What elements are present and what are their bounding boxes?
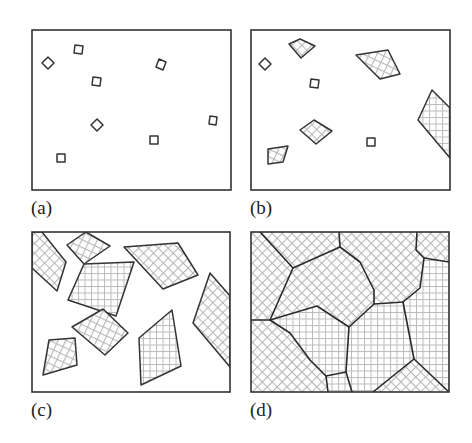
panel-c: (c) xyxy=(31,232,230,421)
panel-b-frame xyxy=(251,30,450,190)
grain xyxy=(300,120,332,144)
panel-b-grains xyxy=(268,39,450,164)
grain xyxy=(268,146,288,164)
nucleus xyxy=(367,138,375,146)
panel-a-label: (a) xyxy=(31,197,52,219)
grain-growth-figure: (a) (b) (c) (d) xyxy=(0,0,472,443)
grain xyxy=(67,232,110,264)
grain xyxy=(72,309,128,355)
grain xyxy=(418,90,450,158)
panel-a-nuclei xyxy=(42,45,217,162)
nucleus xyxy=(310,79,319,88)
nucleus xyxy=(57,154,65,162)
panel-b: (b) xyxy=(250,30,450,219)
grain xyxy=(124,243,198,289)
panel-c-grains xyxy=(32,232,230,385)
panel-a: (a) xyxy=(31,30,231,219)
panel-d: (d) xyxy=(250,232,449,421)
panel-c-label: (c) xyxy=(31,399,52,421)
nucleus xyxy=(92,77,101,86)
grain xyxy=(43,338,77,375)
nucleus xyxy=(74,45,83,54)
grain xyxy=(139,310,181,385)
grain xyxy=(68,262,134,316)
nucleus xyxy=(209,116,217,125)
panel-b-label: (b) xyxy=(250,197,272,219)
nucleus xyxy=(91,119,103,131)
panel-d-label: (d) xyxy=(250,399,272,421)
grain xyxy=(356,50,400,79)
nucleus xyxy=(150,136,158,144)
nucleus xyxy=(42,57,54,69)
panel-a-frame xyxy=(32,30,231,190)
grain xyxy=(32,232,66,291)
nucleus xyxy=(259,58,271,70)
nucleus xyxy=(156,59,166,70)
grain xyxy=(289,39,315,58)
grain xyxy=(193,273,230,367)
